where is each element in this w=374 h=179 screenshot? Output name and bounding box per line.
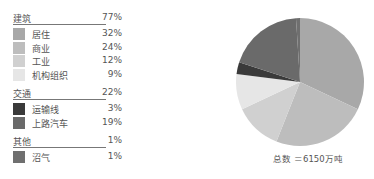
legend-item-label: 机构组织	[32, 69, 68, 82]
legend-item: 居住 32%	[13, 27, 125, 41]
pie-slices	[236, 18, 364, 146]
legend-item-pct: 32%	[102, 28, 122, 38]
legend-item-pct: 1%	[108, 151, 122, 161]
legend-item-label: 运输线	[32, 103, 59, 116]
legend-group-buildings: 建筑 77% 居住 32% 商业 24% 工业 12% 机构组织 9%	[13, 12, 125, 81]
legend-item-label: 居住	[32, 28, 50, 41]
legend-swatch	[13, 28, 25, 40]
legend-swatch	[13, 117, 25, 129]
legend-item: 机构组织 9%	[13, 68, 125, 82]
legend-group-transport: 交通 22% 运输线 3% 上路汽车 19%	[13, 87, 125, 129]
pie-chart	[235, 17, 365, 147]
legend-item: 运输线 3%	[13, 102, 125, 116]
legend-item-label: 沼气	[32, 151, 50, 164]
legend-group-header: 其他 1%	[13, 135, 125, 147]
legend-divider	[13, 147, 106, 148]
legend-item-label: 工业	[32, 55, 50, 68]
legend-item-pct: 9%	[108, 69, 122, 79]
legend-item-pct: 19%	[102, 117, 122, 127]
legend-swatch	[13, 103, 25, 115]
legend-swatch	[13, 151, 25, 163]
legend-group-pct: 1%	[108, 135, 122, 145]
legend-swatch	[13, 55, 25, 67]
legend-item: 沼气 1%	[13, 150, 125, 164]
legend-item: 上路汽车 19%	[13, 116, 125, 130]
legend-group-pct: 77%	[102, 12, 122, 22]
legend-group-pct: 22%	[102, 87, 122, 97]
legend-item-pct: 3%	[108, 103, 122, 113]
legend-item: 工业 12%	[13, 54, 125, 68]
legend-item-pct: 12%	[102, 55, 122, 65]
legend-item-label: 商业	[32, 42, 50, 55]
legend-group-other: 其他 1% 沼气 1%	[13, 135, 125, 164]
legend-swatch	[13, 69, 25, 81]
legend-group-header: 建筑 77%	[13, 12, 125, 24]
chart-legend: 建筑 77% 居住 32% 商业 24% 工业 12% 机构组织 9% 交通 2…	[13, 12, 125, 170]
legend-divider	[13, 24, 106, 25]
legend-item-label: 上路汽车	[32, 117, 68, 130]
legend-swatch	[13, 42, 25, 54]
total-caption: 总数 ＝6150万吨	[258, 152, 358, 164]
legend-item-pct: 24%	[102, 42, 122, 52]
legend-group-header: 交通 22%	[13, 87, 125, 99]
legend-divider	[13, 99, 106, 100]
legend-item: 商业 24%	[13, 41, 125, 55]
